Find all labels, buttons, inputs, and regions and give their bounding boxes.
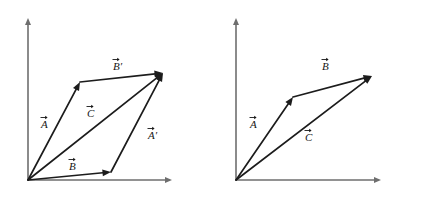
x-axis-arrow-icon <box>165 177 172 183</box>
vector-B-prime: B′ <box>80 58 163 82</box>
vector-A-prime: A′ <box>111 73 163 172</box>
vector-B-shaft <box>293 77 367 97</box>
parallelogram-method-panel: AB′BA′C <box>25 18 172 183</box>
axes-group <box>233 18 381 183</box>
vector-A-label: A <box>40 118 48 130</box>
vector-A-label-letter: A <box>40 118 48 130</box>
vector-B: B <box>28 158 111 180</box>
vector-diagram-figure: AB′BA′CABC <box>0 0 433 198</box>
vector-diagram-canvas: AB′BA′CABC <box>0 0 433 198</box>
vector-C-resultant-label: C <box>305 131 313 143</box>
vector-B-label-letter: B <box>322 60 329 72</box>
vector-B-label-letter: B <box>69 160 76 172</box>
vector-B-label: B <box>69 160 76 172</box>
y-axis-arrow-icon <box>25 18 31 25</box>
vector-A-shaft <box>236 102 290 180</box>
vector-B: B <box>293 58 372 97</box>
vector-B-prime-label: B′ <box>113 60 123 72</box>
vector-A-prime-shaft <box>111 78 160 172</box>
x-axis-arrow-icon <box>374 177 381 183</box>
vector-B-arrowhead-icon <box>102 169 111 176</box>
vector-B-prime-label-prime: ′ <box>120 60 123 72</box>
vector-B-prime-shaft <box>80 74 158 82</box>
vector-A-prime-label-prime: ′ <box>155 129 158 141</box>
vector-C-resultant-label-letter: C <box>305 131 313 143</box>
vector-C-resultant-label-letter: C <box>87 107 95 119</box>
vector-A-prime-label: A′ <box>147 129 158 141</box>
axes-group <box>25 18 172 183</box>
vector-B-shaft <box>28 173 106 180</box>
vector-A-label-letter: A <box>249 118 257 130</box>
y-axis-arrow-icon <box>233 18 239 25</box>
vector-A: A <box>236 97 293 180</box>
vector-A-label: A <box>249 118 257 130</box>
vector-A-arrowhead-icon <box>285 97 293 106</box>
triangle-method-panel: ABC <box>233 18 381 183</box>
vector-C-resultant: C <box>28 73 163 180</box>
vector-A-arrowhead-icon <box>73 82 80 91</box>
vector-B-label: B <box>322 60 329 72</box>
vector-C-resultant-label: C <box>87 107 95 119</box>
